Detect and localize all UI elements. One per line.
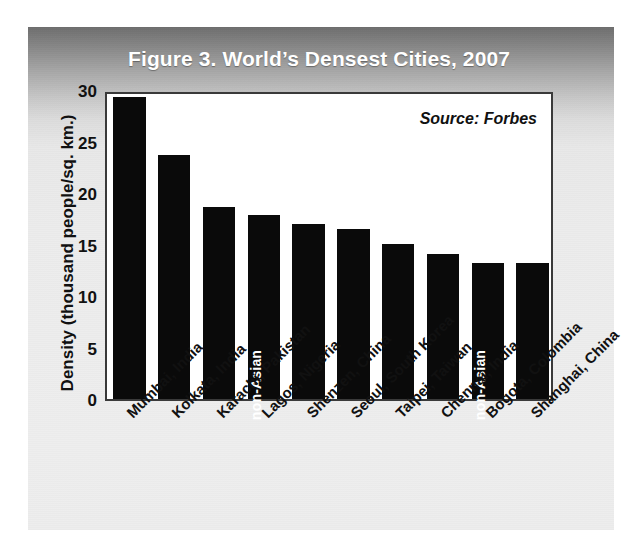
figure-container: Figure 3. World’s Densest Cities, 2007 D… [0, 0, 638, 548]
x-axis-tick-label: Chennai, India [437, 337, 522, 422]
x-axis-tick-label: Mumbai, India [123, 338, 206, 421]
x-axis-tick-label: Lagos, Nigeria [258, 336, 343, 421]
x-axis-tick-labels: Mumbai, IndiaKolkata, IndiaKarachi, Paki… [0, 0, 638, 548]
